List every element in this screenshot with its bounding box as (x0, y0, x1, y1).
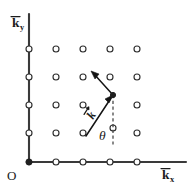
origin-point (26, 159, 32, 165)
lattice-point (134, 159, 140, 165)
lattice-point (26, 130, 32, 136)
lattice-point (107, 159, 113, 165)
lattice-point (134, 102, 140, 108)
kspace-lattice-figure: k θ k x k y O (0, 0, 189, 188)
y-axis-label-base: k (12, 15, 20, 30)
lattice-point (26, 74, 32, 80)
lattice-point (134, 74, 140, 80)
lattice-point (134, 46, 140, 52)
figure-canvas: k θ k x k y O (0, 0, 189, 188)
lattice-point (80, 74, 86, 80)
lattice-point (134, 130, 140, 136)
angle-theta-label: θ (99, 128, 106, 143)
lattice-point (107, 74, 113, 80)
lattice-point (80, 130, 86, 136)
y-axis-label-group: k y (11, 15, 25, 32)
lattice-point (53, 130, 59, 136)
vector-vertex-point (110, 92, 115, 97)
lattice-point (80, 102, 86, 108)
lattice-point (53, 159, 59, 165)
lattice-point (80, 159, 86, 165)
lattice-points-group (26, 46, 140, 165)
lattice-point (80, 46, 86, 52)
x-axis-label-subscript: x (170, 174, 175, 184)
lattice-point (53, 102, 59, 108)
lattice-point (26, 46, 32, 52)
lattice-point (53, 74, 59, 80)
lattice-point (26, 102, 32, 108)
origin-label: O (7, 168, 16, 183)
lattice-point (53, 46, 59, 52)
lattice-point (107, 46, 113, 52)
y-axis-label-subscript: y (20, 22, 25, 32)
x-axis-label-base: k (162, 167, 170, 182)
x-axis-label-group: k x (161, 167, 175, 184)
